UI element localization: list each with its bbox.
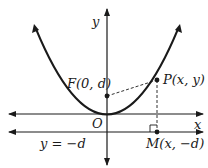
y-axis-label: y bbox=[92, 15, 99, 28]
origin-label: O bbox=[92, 117, 103, 130]
focus-point bbox=[105, 94, 110, 99]
focus-label: F(0, d) bbox=[67, 77, 111, 90]
point-p bbox=[155, 78, 160, 83]
point-p-label: P(x, y) bbox=[163, 73, 205, 86]
directrix-label: y = −d bbox=[40, 137, 86, 150]
x-axis-label: x bbox=[194, 118, 201, 131]
point-m-label: M(x, −d) bbox=[146, 137, 204, 150]
point-m bbox=[155, 130, 160, 135]
